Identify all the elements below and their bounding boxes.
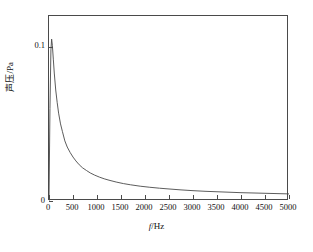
y-axis-title-label: 声压/Pa	[3, 62, 16, 92]
x-tick-label: 5000	[268, 203, 308, 212]
x-axis-title: f/Hz	[0, 221, 313, 231]
x-tick	[49, 195, 50, 199]
x-tick	[193, 195, 194, 199]
x-tick	[97, 195, 98, 199]
data-curve	[49, 16, 289, 201]
x-tick	[289, 195, 290, 199]
x-axis-title-unit: /Hz	[151, 221, 164, 231]
x-tick	[265, 195, 266, 199]
plot-area	[48, 15, 288, 200]
x-tick	[217, 195, 218, 199]
figure: 0500100015002000250030003500400045005000…	[0, 0, 313, 252]
x-tick	[169, 195, 170, 199]
series-sound-pressure	[49, 39, 289, 201]
x-tick	[73, 195, 74, 199]
x-tick	[121, 195, 122, 199]
y-tick-label: 0	[23, 196, 45, 205]
x-tick	[241, 195, 242, 199]
y-tick-label: 0.1	[23, 41, 45, 50]
y-tick	[49, 47, 53, 48]
y-axis-title: 声压/Pa	[3, 78, 16, 92]
x-tick	[145, 195, 146, 199]
